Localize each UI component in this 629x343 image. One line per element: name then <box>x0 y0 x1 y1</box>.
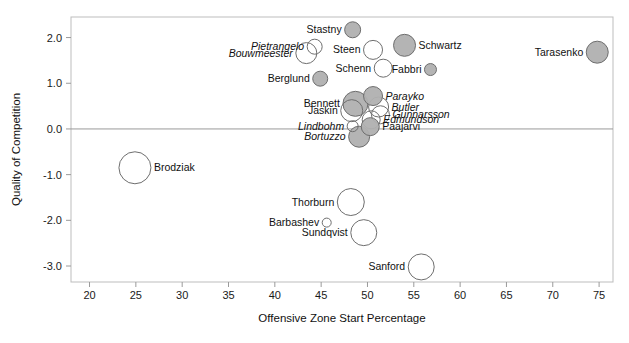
x-tick-label: 60 <box>454 289 466 301</box>
data-point-bubble <box>341 100 363 122</box>
point-label: Bortuzzo <box>304 130 346 142</box>
bubble-chart-container: 202530354045505560657075 2.01.00.0-1.0-2… <box>0 0 629 343</box>
data-point-bubble <box>364 87 383 106</box>
y-tick-label: -1.0 <box>43 169 62 181</box>
point-label: Brodziak <box>154 161 196 173</box>
data-point-bubble <box>345 22 361 38</box>
x-tick-label: 65 <box>500 289 512 301</box>
data-point-bubble <box>408 254 434 280</box>
y-tick-label: 1.0 <box>47 77 62 89</box>
x-tick-label: 20 <box>83 289 95 301</box>
data-point-bubble <box>337 189 364 216</box>
x-axis-title: Offensive Zone Start Percentage <box>258 312 425 324</box>
point-label: Sundqvist <box>302 226 348 238</box>
quality-of-competition-scatter-chart: 202530354045505560657075 2.01.00.0-1.0-2… <box>0 0 629 343</box>
data-point-bubble <box>347 121 358 132</box>
point-label: Paajarvi <box>382 120 420 132</box>
data-point-bubble <box>374 59 392 77</box>
point-label: Sanford <box>368 260 405 272</box>
point-label: Stastny <box>307 23 343 35</box>
x-tick-label: 75 <box>593 289 605 301</box>
data-point-bubble <box>307 39 322 54</box>
y-tick-label: -2.0 <box>43 214 62 226</box>
data-point-bubble <box>361 118 379 136</box>
data-point-bubble <box>351 220 377 246</box>
point-label: Bouwmeester <box>229 47 294 59</box>
point-label: Fabbri <box>392 63 422 75</box>
data-point-bubble <box>313 71 328 86</box>
x-tick-label: 45 <box>315 289 327 301</box>
point-label: Schwartz <box>419 39 462 51</box>
point-label: Berglund <box>268 72 310 84</box>
point-label: Thorburn <box>292 196 335 208</box>
point-label: Steen <box>333 43 361 55</box>
data-point-bubble <box>119 152 151 184</box>
x-tick-label: 70 <box>547 289 559 301</box>
data-point-bubble <box>394 34 416 56</box>
data-point-bubble <box>364 40 383 59</box>
x-tick-label: 40 <box>269 289 281 301</box>
data-point-bubble <box>586 41 608 63</box>
y-tick-label: 2.0 <box>47 32 62 44</box>
x-tick-label: 35 <box>222 289 234 301</box>
point-label: Jaskin <box>308 104 338 116</box>
y-axis-title: Quality of Competition <box>10 93 22 206</box>
data-point-bubble <box>424 64 436 76</box>
y-tick-label: -3.0 <box>43 260 62 272</box>
point-label: Tarasenko <box>535 46 584 58</box>
x-tick-label: 25 <box>130 289 142 301</box>
point-label: Schenn <box>336 62 372 74</box>
x-tick-label: 30 <box>176 289 188 301</box>
y-tick-label: 0.0 <box>47 123 62 135</box>
x-tick-label: 50 <box>361 289 373 301</box>
x-tick-label: 55 <box>408 289 420 301</box>
